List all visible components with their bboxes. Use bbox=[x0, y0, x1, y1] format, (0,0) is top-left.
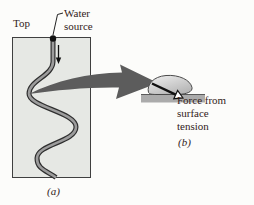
force-label-line2: surface bbox=[177, 107, 209, 120]
water-source-label-line2: source bbox=[64, 20, 93, 32]
water-source-label-line1: Water bbox=[64, 7, 90, 19]
force-label-line1: Force from bbox=[177, 94, 226, 107]
water-source-dot bbox=[50, 35, 56, 41]
panel-b-label: (b) bbox=[178, 136, 191, 148]
panel-a-label: (a) bbox=[47, 185, 60, 197]
water-source-leader-line bbox=[53, 13, 63, 35]
force-label-line3: tension bbox=[177, 120, 209, 133]
surface-tension-figure: Top Water source (a) Force from surface … bbox=[0, 0, 254, 205]
top-label: Top bbox=[13, 17, 30, 29]
